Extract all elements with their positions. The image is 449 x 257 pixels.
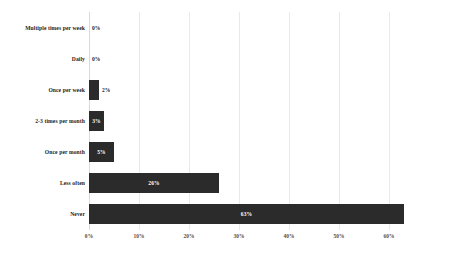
bar-value-label: 3% [92,111,100,131]
x-tick-label: 50% [333,233,344,239]
bar-chart: Multiple times per weekDailyOnce per wee… [0,0,449,257]
bar-row: 26% [89,173,439,193]
bar-value-label: 0% [92,18,100,38]
bars-container: 0%0%2%3%5%26%63% [89,12,439,230]
x-tick-label: 20% [183,233,194,239]
x-tick-label: 10% [133,233,144,239]
bar-row: 0% [89,18,439,38]
x-tick-label: 40% [283,233,294,239]
bar-value-label: 5% [97,142,105,162]
bar-value-label: 2% [102,80,110,100]
bar-row: 0% [89,49,439,69]
x-axis-tick-labels: 0%10%20%30%40%50%60% [89,233,439,247]
category-label: Less often [60,173,85,193]
x-tick-label: 30% [233,233,244,239]
bar-row: 5% [89,142,439,162]
plot-area: 0%0%2%3%5%26%63% [89,12,439,230]
bar-row: 63% [89,204,439,224]
category-label: Multiple times per week [25,18,85,38]
bar-value-label: 63% [241,204,252,224]
bar-row: 2% [89,80,439,100]
category-label: Once per week [48,80,85,100]
x-tick-label: 0% [85,233,93,239]
category-label: Once per month [45,142,85,162]
bar-value-label: 0% [92,49,100,69]
x-tick-label: 60% [383,233,394,239]
category-label: Daily [72,49,85,69]
category-label: 2-3 times per month [35,111,85,131]
bar-value-label: 26% [148,173,159,193]
bar-row: 3% [89,111,439,131]
bar [89,80,99,100]
category-label: Never [70,204,85,224]
category-axis-labels: Multiple times per weekDailyOnce per wee… [0,12,85,230]
